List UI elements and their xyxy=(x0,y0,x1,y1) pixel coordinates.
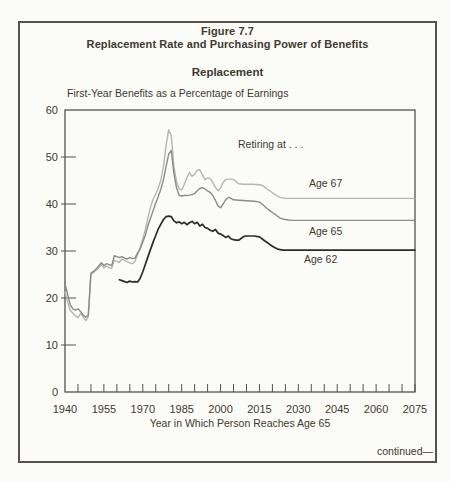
x-tick-label: 2075 xyxy=(403,403,427,415)
line-chart: 1940195519701985200020152030204520602075… xyxy=(0,0,451,482)
continued-label: continued— xyxy=(233,445,433,457)
y-tick-label: 50 xyxy=(46,151,58,163)
y-tick-label: 30 xyxy=(46,245,58,257)
y-tick-label: 60 xyxy=(46,104,58,116)
x-tick-label: 2030 xyxy=(286,403,310,415)
y-tick-label: 20 xyxy=(46,292,58,304)
y-tick-label: 40 xyxy=(46,198,58,210)
retiring-at-annotation: Retiring at . . . xyxy=(238,138,303,150)
series-label-age-62: Age 62 xyxy=(304,253,337,265)
page: { "figure": { "number": "Figure 7.7", "t… xyxy=(0,0,451,482)
y-tick-label: 10 xyxy=(46,339,58,351)
x-axis-title: Year in Which Person Reaches Age 65 xyxy=(65,417,415,429)
series-label-age-67: Age 67 xyxy=(309,177,342,189)
x-tick-label: 2015 xyxy=(247,403,271,415)
x-tick-label: 2045 xyxy=(325,403,349,415)
series-line-age-67 xyxy=(65,130,415,321)
x-tick-label: 1970 xyxy=(131,403,155,415)
x-tick-label: 1940 xyxy=(53,403,77,415)
series-label-age-65: Age 65 xyxy=(309,225,342,237)
plot-frame xyxy=(65,110,415,392)
series-line-age-62 xyxy=(119,216,415,282)
x-tick-label: 2000 xyxy=(208,403,232,415)
x-tick-label: 1985 xyxy=(169,403,193,415)
y-tick-label: 0 xyxy=(52,386,58,398)
x-tick-label: 2060 xyxy=(364,403,388,415)
series-line-age-65 xyxy=(65,150,415,317)
x-tick-label: 1955 xyxy=(92,403,116,415)
